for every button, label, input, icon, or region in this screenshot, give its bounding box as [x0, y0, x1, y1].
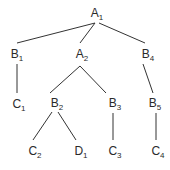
- node-C2: C2: [28, 145, 41, 160]
- node-B2: B2: [51, 97, 63, 112]
- edge-A1-B1: [17, 23, 95, 43]
- edge-A2-B2: [50, 66, 80, 93]
- node-A1: A1: [91, 7, 103, 22]
- edge-B2-D1: [58, 112, 76, 140]
- node-C1: C1: [12, 98, 25, 113]
- node-D1: D1: [74, 145, 87, 160]
- edge-A2-B3: [80, 66, 106, 93]
- node-C4: C4: [151, 145, 164, 160]
- node-A2: A2: [76, 48, 88, 63]
- node-B4: B4: [142, 48, 154, 63]
- node-C3: C3: [108, 145, 121, 160]
- node-B5: B5: [149, 97, 161, 112]
- edge-A1-B4: [99, 23, 145, 43]
- node-B1: B1: [11, 48, 23, 63]
- edge-B4-B5: [143, 64, 153, 93]
- edge-B2-C2: [33, 112, 52, 140]
- node-B3: B3: [109, 97, 121, 112]
